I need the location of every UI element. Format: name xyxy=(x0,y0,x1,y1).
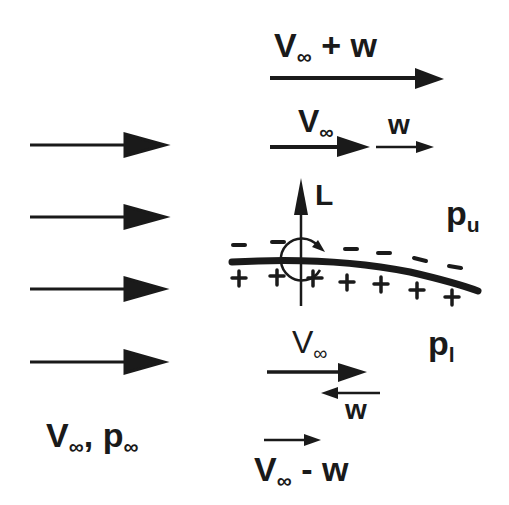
infinity-subscript: ∞ xyxy=(297,45,312,68)
freestream-arrow xyxy=(30,278,164,300)
freestream-arrows xyxy=(30,134,165,373)
freestream-label: V∞, p∞ xyxy=(46,418,138,457)
w-symbol: w xyxy=(388,109,410,140)
upper-freestream-label: V∞ xyxy=(298,105,333,143)
lower-subscript: l xyxy=(449,343,455,366)
lower-pressure-label: pl xyxy=(428,326,455,365)
upper-sum-arrow xyxy=(270,68,444,89)
velocity-symbol: V xyxy=(274,26,297,64)
lift-label: L xyxy=(315,180,333,210)
upper-pressure-label: pu xyxy=(446,196,480,235)
velocity-symbol: V xyxy=(292,324,313,360)
infinity-subscript: ∞ xyxy=(123,435,138,458)
upper-w-label: w xyxy=(388,111,410,139)
lower-diff-arrow xyxy=(264,434,321,446)
lower-freestream-arrow xyxy=(267,363,367,382)
velocity-symbol: V xyxy=(254,450,277,488)
w-symbol: w xyxy=(345,394,367,425)
freestream-arrow xyxy=(30,206,165,228)
freestream-arrow xyxy=(30,134,165,156)
upper-w-arrow xyxy=(376,141,434,153)
infinity-subscript: ∞ xyxy=(69,435,84,458)
infinity-subscript: ∞ xyxy=(319,121,333,143)
lower-w-label: w xyxy=(345,396,367,424)
velocity-symbol: V xyxy=(298,103,319,139)
lower-freestream-label: V∞ xyxy=(292,326,327,364)
pressure-symbol: p xyxy=(428,324,449,362)
pressure-symbol: p xyxy=(103,416,124,454)
plus-w-text: + w xyxy=(312,26,377,64)
lower-diff-label: V∞ - w xyxy=(254,452,348,491)
velocity-symbol: V xyxy=(46,416,69,454)
lift-arrow xyxy=(294,178,308,306)
comma-separator: , xyxy=(84,416,103,454)
lift-symbol: L xyxy=(315,178,333,211)
upper-subscript: u xyxy=(467,213,480,236)
freestream-arrow xyxy=(30,351,164,373)
minus-w-text: - w xyxy=(292,450,349,488)
infinity-subscript: ∞ xyxy=(313,342,327,364)
pressure-symbol: p xyxy=(446,194,467,232)
infinity-subscript: ∞ xyxy=(277,469,292,492)
upper-sum-label: V∞ + w xyxy=(274,28,377,67)
